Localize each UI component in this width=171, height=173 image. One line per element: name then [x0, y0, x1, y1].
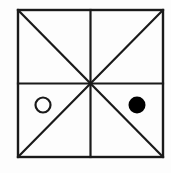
filled-circle-marker	[129, 97, 146, 114]
geometric-figure	[0, 0, 171, 173]
hollow-circle-marker	[36, 98, 51, 113]
figure-canvas	[0, 0, 171, 173]
